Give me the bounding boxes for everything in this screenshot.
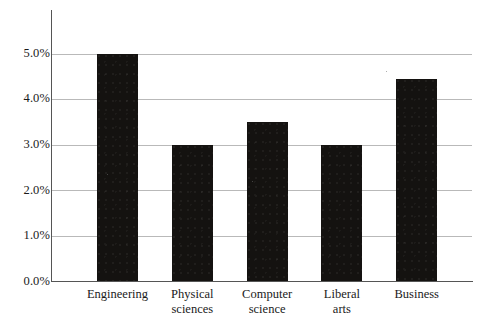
y-tick-3: 3.0% <box>0 138 50 151</box>
y-tick-label: 4.0% <box>4 92 50 105</box>
y-tick-1: 1.0% <box>0 229 50 242</box>
y-tick-0: 0.0% <box>0 275 50 288</box>
bar-business <box>396 79 437 281</box>
scan-speck <box>252 181 253 182</box>
x-label-computer-science: Computer science <box>230 287 304 316</box>
y-tick-label: 5.0% <box>4 47 50 60</box>
x-label-physical-sciences: Physical sciences <box>155 287 229 316</box>
y-tick-label: 2.0% <box>4 184 50 197</box>
x-axis-line <box>52 281 473 282</box>
y-tick-5: 5.0% <box>0 47 50 60</box>
y-tick-label: 1.0% <box>4 229 50 242</box>
x-label-liberal-arts: Liberal arts <box>305 287 379 316</box>
x-label-engineering: Engineering <box>81 287 155 302</box>
y-tick-2: 2.0% <box>0 184 50 197</box>
y-tick-label: 3.0% <box>4 138 50 151</box>
bar-chart: 5.0% 4.0% 3.0% 2.0% 1.0% 0.0% Engineerin… <box>0 0 479 324</box>
y-tick-4: 4.0% <box>0 92 50 105</box>
scan-speck <box>386 71 387 72</box>
scan-speck <box>107 174 108 175</box>
bar-physical-sciences <box>172 145 213 281</box>
y-axis-line <box>51 10 52 282</box>
bar-liberal-arts <box>321 145 362 281</box>
y-tick-label: 0.0% <box>4 275 50 288</box>
x-label-business: Business <box>380 287 454 302</box>
bar-engineering <box>97 54 138 281</box>
bar-computer-science <box>247 122 288 281</box>
